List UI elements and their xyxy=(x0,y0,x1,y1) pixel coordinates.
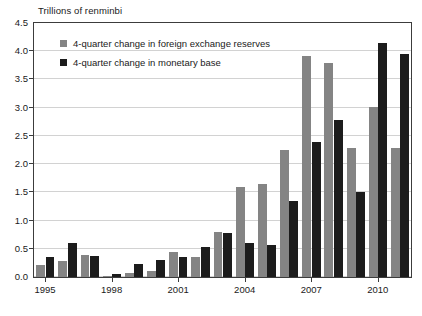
bar-monetary-base xyxy=(356,192,365,277)
y-axis-tick-mark xyxy=(29,163,33,164)
x-axis-tick-label: 1995 xyxy=(35,284,56,295)
bar-monetary-base xyxy=(90,256,99,277)
x-axis-tick-mark xyxy=(311,278,312,282)
x-axis-tick-label: 2004 xyxy=(234,284,255,295)
y-axis-tick-mark xyxy=(29,248,33,249)
y-axis-tick-label: 2.0 xyxy=(15,158,28,169)
legend-item-base: 4-quarter change in monetary base xyxy=(60,57,270,68)
legend-label-reserves: 4-quarter change in foreign exchange res… xyxy=(73,38,270,49)
bar-monetary-base xyxy=(201,247,210,277)
bar-monetary-base xyxy=(112,274,121,277)
x-axis-tick-mark xyxy=(178,278,179,282)
x-axis-tick-mark xyxy=(245,278,246,282)
x-axis-tick-label: 2007 xyxy=(301,284,322,295)
bar-group xyxy=(367,23,389,277)
bar-monetary-base xyxy=(378,43,387,277)
y-axis-tick-label: 4.5 xyxy=(15,17,28,28)
chart-figure: Trillions of renminbi 4.54.03.53.02.52.0… xyxy=(0,0,422,316)
y-axis-tick-mark xyxy=(29,220,33,221)
bar-monetary-base xyxy=(68,243,77,277)
x-axis-tick-mark xyxy=(45,278,46,282)
bar-group xyxy=(278,23,300,277)
bar-reserves xyxy=(280,150,289,277)
bar-monetary-base xyxy=(223,233,232,277)
x-axis-tick-label: 1998 xyxy=(101,284,122,295)
bar-reserves xyxy=(324,63,333,277)
bar-reserves xyxy=(214,232,223,277)
bar-reserves xyxy=(191,257,200,277)
bar-group xyxy=(300,23,322,277)
legend-label-base: 4-quarter change in monetary base xyxy=(73,57,221,68)
x-axis-tick-mark xyxy=(112,278,113,282)
x-axis-tick-label: 2001 xyxy=(168,284,189,295)
x-axis-tick-label: 2010 xyxy=(367,284,388,295)
bar-monetary-base xyxy=(400,54,409,277)
bar-monetary-base xyxy=(267,245,276,277)
bar-monetary-base xyxy=(46,257,55,277)
bar-reserves xyxy=(169,252,178,277)
bar-reserves xyxy=(302,56,311,277)
bar-reserves xyxy=(81,255,90,277)
legend-swatch-reserves xyxy=(60,40,67,47)
y-axis-tick-label: 1.0 xyxy=(15,214,28,225)
bar-reserves xyxy=(36,265,45,277)
y-axis-tick-label: 1.5 xyxy=(15,186,28,197)
y-axis-tick-mark xyxy=(29,78,33,79)
y-axis: 4.54.03.53.02.52.01.51.00.50.0 xyxy=(0,22,33,278)
y-axis-tick-label: 4.0 xyxy=(15,45,28,56)
bar-group xyxy=(389,23,411,277)
bar-reserves xyxy=(103,276,112,277)
bar-monetary-base xyxy=(289,201,298,277)
y-axis-tick-label: 0.5 xyxy=(15,242,28,253)
x-axis-tick-mark xyxy=(378,278,379,282)
bar-reserves xyxy=(236,187,245,277)
bar-group xyxy=(344,23,366,277)
bar-reserves xyxy=(125,273,134,277)
bar-reserves xyxy=(147,271,156,277)
bar-reserves xyxy=(347,148,356,277)
bar-group xyxy=(34,23,56,277)
y-axis-tick-mark xyxy=(29,135,33,136)
chart-legend: 4-quarter change in foreign exchange res… xyxy=(60,38,270,76)
y-axis-tick-label: 0.0 xyxy=(15,271,28,282)
y-axis-tick-mark xyxy=(29,191,33,192)
bar-monetary-base xyxy=(179,257,188,277)
legend-item-reserves: 4-quarter change in foreign exchange res… xyxy=(60,38,270,49)
bar-monetary-base xyxy=(245,243,254,277)
y-axis-tick-mark xyxy=(29,107,33,108)
y-axis-tick-label: 3.5 xyxy=(15,73,28,84)
chart-axis-title: Trillions of renminbi xyxy=(38,5,122,16)
bar-reserves xyxy=(58,261,67,277)
bar-reserves xyxy=(258,184,267,277)
bar-monetary-base xyxy=(334,120,343,277)
y-axis-tick-label: 3.0 xyxy=(15,101,28,112)
bar-monetary-base xyxy=(156,260,165,277)
bar-reserves xyxy=(369,107,378,277)
legend-swatch-base xyxy=(60,59,67,66)
bar-monetary-base xyxy=(312,142,321,277)
bar-monetary-base xyxy=(134,264,143,277)
bar-group xyxy=(322,23,344,277)
x-axis: 199519982001200420072010 xyxy=(34,278,411,308)
y-axis-tick-mark xyxy=(29,50,33,51)
bar-reserves xyxy=(391,148,400,277)
y-axis-tick-label: 2.5 xyxy=(15,129,28,140)
